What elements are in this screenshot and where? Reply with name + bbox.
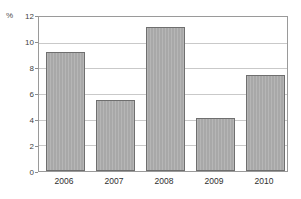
x-tick-label-2009: 2009 xyxy=(192,176,236,186)
y-tickmark-6 xyxy=(35,94,38,95)
y-tick-label-12: 12 xyxy=(14,13,34,21)
chart-title xyxy=(6,0,186,3)
bar-2008 xyxy=(146,27,185,171)
y-tick-label-0: 0 xyxy=(14,169,34,177)
y-tick-label-8: 8 xyxy=(14,65,34,73)
x-tick-label-2010: 2010 xyxy=(242,176,286,186)
y-tick-label-10: 10 xyxy=(14,39,34,47)
bar-chart-figure: % 12 10 8 6 4 2 0 2006 2007 2 xyxy=(0,0,301,199)
x-tick-label-2006: 2006 xyxy=(42,176,86,186)
bar-texture xyxy=(147,28,184,170)
bar-texture xyxy=(197,119,234,170)
y-tickmark-0 xyxy=(35,172,38,173)
y-tick-label-6: 6 xyxy=(14,91,34,99)
bar-2006 xyxy=(46,52,85,171)
bar-texture xyxy=(247,76,284,170)
y-axis-unit-label: % xyxy=(6,11,13,21)
bar-2007 xyxy=(96,100,135,171)
y-tick-label-2: 2 xyxy=(14,143,34,151)
y-tickmark-4 xyxy=(35,120,38,121)
y-tickmark-2 xyxy=(35,146,38,147)
bar-2010 xyxy=(246,75,285,171)
x-tick-label-2008: 2008 xyxy=(142,176,186,186)
y-tickmark-10 xyxy=(35,42,38,43)
plot-area xyxy=(38,16,288,172)
bar-texture xyxy=(97,101,134,170)
bar-2009 xyxy=(196,118,235,171)
y-tickmark-12 xyxy=(35,16,38,17)
bar-texture xyxy=(47,53,84,170)
x-tick-label-2007: 2007 xyxy=(92,176,136,186)
y-tickmark-8 xyxy=(35,68,38,69)
y-tick-label-4: 4 xyxy=(14,117,34,125)
